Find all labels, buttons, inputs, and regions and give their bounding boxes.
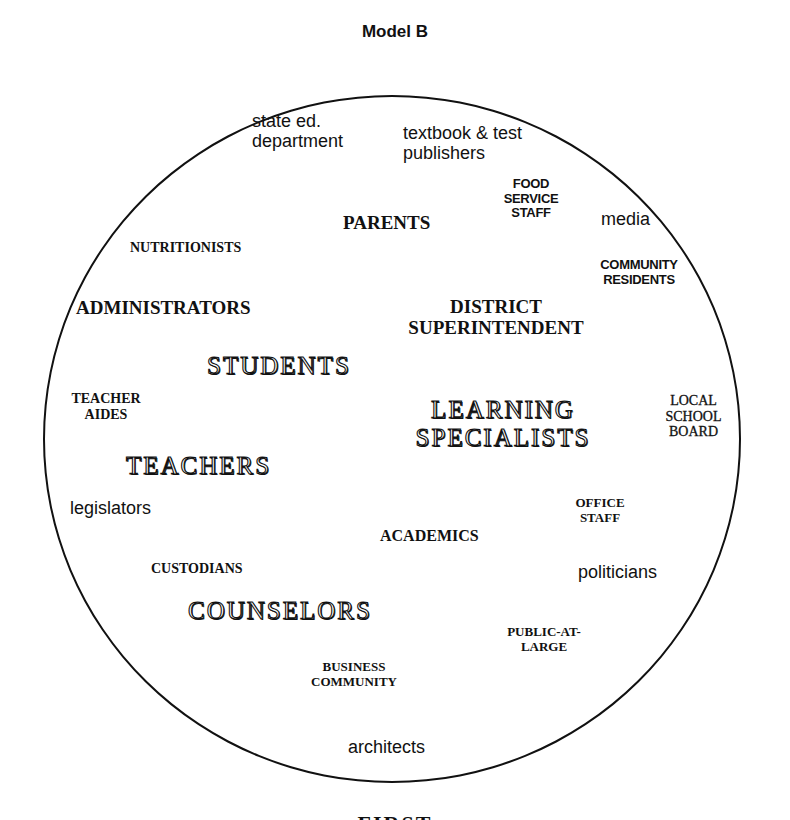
label-students: STUDENTS [207,352,351,380]
label-public-at-large: PUBLIC-AT- LARGE [474,625,614,654]
label-nutritionists: NUTRITIONISTS [130,240,241,256]
label-office-staff: OFFICE STAFF [568,496,632,525]
diagram-title: Model B [0,22,790,42]
label-learning-specialists: LEARNING SPECIALISTS [408,396,598,452]
label-textbook-test-publishers: textbook & test publishers [403,123,522,163]
label-district-superintendent: DISTRICT SUPERINTENDENT [384,296,608,339]
label-politicians: politicians [578,562,657,582]
label-community-residents: COMMUNITY RESIDENTS [583,258,695,287]
label-food-service-staff: FOOD SERVICE STAFF [491,177,571,221]
label-business-community: BUSINESS COMMUNITY [294,660,414,689]
label-local-school-board: LOCAL SCHOOL BOARD [656,393,731,440]
label-teachers: TEACHERS [126,452,271,480]
label-parents: PARENTS [343,212,430,233]
label-teacher-aides: TEACHER AIDES [60,391,152,422]
label-academics: ACADEMICS [380,527,479,545]
label-state-ed-department: state ed. department [252,111,343,151]
label-administrators: ADMINISTRATORS [76,297,251,318]
footer-caption-text: FIRST [0,811,790,820]
label-custodians: CUSTODIANS [151,561,243,577]
label-media: media [601,209,650,229]
label-legislators: legislators [70,498,151,518]
footer-cropped-caption: FIRST [0,808,790,820]
label-architects: architects [348,737,425,757]
label-counselors: COUNSELORS [188,597,372,625]
